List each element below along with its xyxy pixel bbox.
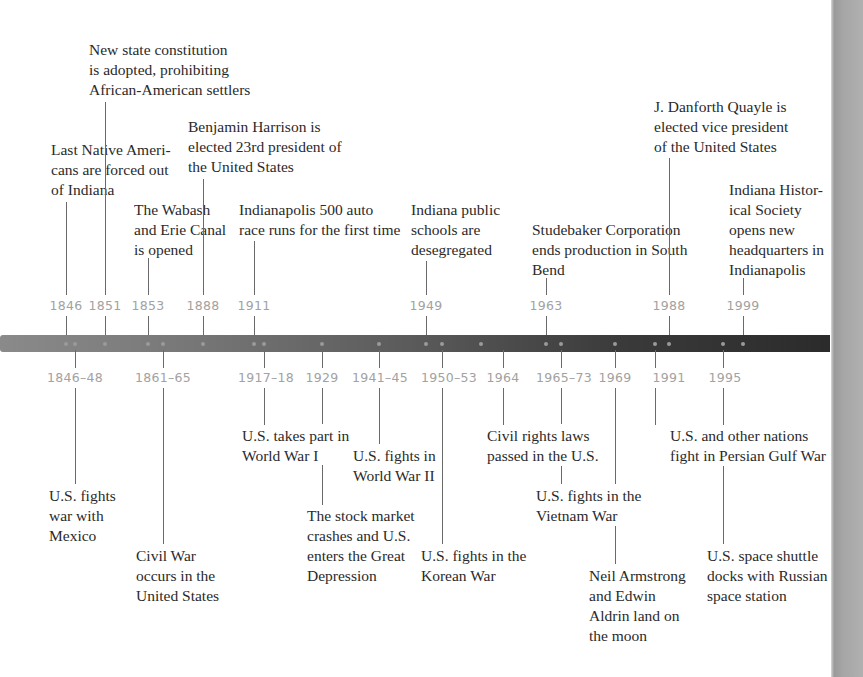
event-text-1988: J. Danforth Quayle is elected vice presi… <box>654 97 788 157</box>
event-text-1950-53: U.S. fights in the Korean War <box>421 546 527 586</box>
event-text-1949: Indiana public schools are desegregated <box>411 200 500 260</box>
marker-dot-1999 <box>741 342 745 346</box>
year-label-1995: 1995 <box>708 370 741 385</box>
connector-1851-upper <box>105 102 106 295</box>
marker-dot-1995 <box>721 342 725 346</box>
marker-dot-1846-48 <box>73 342 77 346</box>
year-label-1964: 1964 <box>486 370 519 385</box>
connector-1950-53-bar <box>442 350 443 368</box>
year-label-1846-48: 1846–48 <box>47 370 103 385</box>
connector-1846-upper <box>66 202 67 295</box>
marker-dot-1969 <box>613 342 617 346</box>
connector-1999-upper <box>743 278 744 295</box>
marker-dot-1941-45 <box>377 342 381 346</box>
connector-1929-bar <box>322 350 323 368</box>
event-text-1846-48: U.S. fights war with Mexico <box>49 486 116 546</box>
year-label-1853: 1853 <box>131 298 164 313</box>
year-label-1941-45: 1941–45 <box>352 370 408 385</box>
connector-1950-53-lower <box>442 388 443 544</box>
marker-dot-1965-73 <box>559 342 563 346</box>
marker-dot-1851 <box>103 342 107 346</box>
marker-dot-1950-53 <box>440 342 444 346</box>
timeline-page: Last Native Ameri- cans are forced out o… <box>0 0 831 677</box>
connector-1929-lower-b <box>322 465 323 505</box>
marker-dot-1917-18 <box>262 342 266 346</box>
marker-dot-1861-65 <box>161 342 165 346</box>
year-label-1991: 1991 <box>652 370 685 385</box>
year-label-1999: 1999 <box>726 298 759 313</box>
event-text-1969: Neil Armstrong and Edwin Aldrin land on … <box>589 566 686 646</box>
connector-1888-upper <box>203 179 204 295</box>
connector-1965-73-bar <box>561 350 562 368</box>
event-text-1851: New state constitution is adopted, prohi… <box>89 40 250 100</box>
event-text-1965-73: U.S. fights in the Vietnam War <box>536 486 642 526</box>
marker-dot-1911 <box>252 342 256 346</box>
marker-dot-1956 <box>479 342 483 346</box>
connector-1941-45-bar <box>379 350 380 368</box>
connector-1853-upper <box>148 258 149 295</box>
marker-dot-1949 <box>424 342 428 346</box>
year-label-1949: 1949 <box>409 298 442 313</box>
connector-1949-upper <box>426 261 427 295</box>
marker-dot-1853 <box>146 342 150 346</box>
year-label-1929: 1929 <box>305 370 338 385</box>
connector-1929-lower-a <box>322 388 323 424</box>
connector-1991-lower <box>655 388 656 425</box>
year-label-1846: 1846 <box>49 298 82 313</box>
marker-dot-1888 <box>201 342 205 346</box>
year-label-1950-53: 1950–53 <box>421 370 477 385</box>
year-label-1969: 1969 <box>598 370 631 385</box>
connector-1846-48-bar <box>75 350 76 368</box>
event-text-1963: Studebaker Corporation ends production i… <box>532 220 687 280</box>
connector-1963-upper <box>546 278 547 295</box>
connector-1917-18-lower <box>264 388 265 425</box>
connector-1846-48-lower <box>75 388 76 484</box>
marker-dot-1963 <box>544 342 548 346</box>
event-text-1964: Civil rights laws passed in the U.S. <box>487 426 599 466</box>
connector-1969-bar <box>615 350 616 368</box>
connector-1995-lower-b <box>723 466 724 544</box>
marker-dot-1988 <box>667 342 671 346</box>
connector-1988-upper <box>669 158 670 295</box>
connector-1964-lower <box>503 388 504 425</box>
year-label-1911: 1911 <box>237 298 270 313</box>
year-label-1965-73: 1965–73 <box>536 370 592 385</box>
connector-1917-18-bar <box>264 350 265 368</box>
connector-1995-lower-a <box>723 388 724 425</box>
marker-dot-1991 <box>653 342 657 346</box>
connector-1969-lower-a <box>615 388 616 484</box>
year-label-1988: 1988 <box>652 298 685 313</box>
year-label-1888: 1888 <box>186 298 219 313</box>
event-text-1991: U.S. and other nations fight in Persian … <box>670 426 826 466</box>
marker-dot-1929 <box>320 342 324 346</box>
connector-1995-bar <box>723 350 724 368</box>
connector-1965-73-lower-b <box>561 466 562 484</box>
marker-dot-1846 <box>64 342 68 346</box>
year-label-1861-65: 1861–65 <box>135 370 191 385</box>
connector-1861-65-bar <box>163 350 164 368</box>
connector-1964-bar <box>503 350 504 368</box>
event-text-1888: Benjamin Harrison is elected 23rd presid… <box>188 117 342 177</box>
connector-1861-65-lower <box>163 388 164 544</box>
event-text-1853: The Wabash and Erie Canal is opened <box>134 200 226 260</box>
connector-1965-73-lower-a <box>561 388 562 424</box>
connector-1991-bar <box>655 350 656 368</box>
event-text-1917-18: U.S. takes part in World War I <box>242 426 349 466</box>
event-text-1846: Last Native Ameri- cans are forced out o… <box>51 140 171 200</box>
page-edge-strip <box>831 0 863 677</box>
event-text-1999: Indiana Histor- ical Society opens new h… <box>729 180 824 280</box>
event-text-1995: U.S. space shuttle docks with Russian sp… <box>707 546 828 606</box>
timeline-bar <box>0 335 830 352</box>
connector-1911-upper <box>254 241 255 295</box>
connector-1941-45-lower <box>379 388 380 444</box>
year-label-1917-18: 1917–18 <box>238 370 294 385</box>
event-text-1861-65: Civil War occurs in the United States <box>136 546 219 606</box>
event-text-1929: The stock market crashes and U.S. enters… <box>307 506 415 586</box>
event-text-1941-45: U.S. fights in World War II <box>353 446 436 486</box>
connector-1969-lower-b <box>615 526 616 564</box>
event-text-1911: Indianapolis 500 auto race runs for the … <box>239 200 400 240</box>
year-label-1963: 1963 <box>529 298 562 313</box>
year-label-1851: 1851 <box>88 298 121 313</box>
